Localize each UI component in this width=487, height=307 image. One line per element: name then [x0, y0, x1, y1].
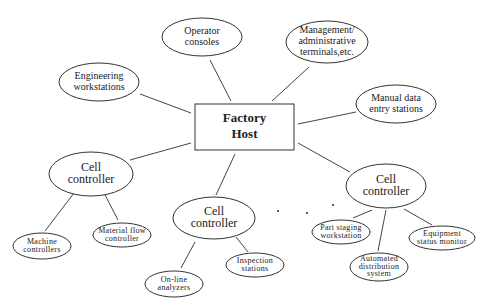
node-machine-controllers: Machinecontrollers	[13, 233, 71, 259]
node-label-line: terminals,etc.	[300, 46, 354, 57]
node-label-line: Host	[232, 126, 259, 141]
node-cell-controller-middle: Cellcontroller	[173, 197, 255, 239]
node-management-terminals: Management/administrativeterminals,etc.	[286, 21, 368, 63]
node-label-line: system	[367, 269, 391, 278]
node-label-line: administrative	[298, 35, 356, 46]
node-label-line: Operator	[184, 25, 220, 36]
edge-factory-host-to-cell-controller-right	[298, 143, 350, 172]
edge-factory-host-to-operator-consoles	[210, 60, 231, 101]
node-label-line: status monitor	[417, 237, 467, 246]
edge-factory-host-to-engineering-workstations	[140, 94, 191, 113]
edge-cell-controller-left-to-material-flow-controller	[104, 193, 118, 220]
edge-cell-controller-left-to-machine-controllers	[45, 193, 74, 231]
node-label-line: Management/	[300, 24, 355, 35]
node-part-staging-workstation: Part stagingworkstation	[312, 220, 370, 244]
edge-cell-controller-middle-to-inspection-stations	[236, 237, 248, 252]
nodes: FactoryHostOperatorconsolesManagement/ad…	[13, 18, 475, 297]
edge-cell-controller-right-to-part-staging-workstation	[353, 210, 372, 218]
edge-factory-host-to-manual-data-entry	[298, 112, 356, 124]
node-label-line: controller	[68, 172, 115, 186]
network-diagram: FactoryHostOperatorconsolesManagement/ad…	[0, 0, 487, 307]
ellipsis-dot	[306, 212, 308, 214]
node-label-line: Manual data	[371, 92, 421, 103]
diagram-canvas: FactoryHostOperatorconsolesManagement/ad…	[0, 0, 487, 307]
edge-factory-host-to-cell-controller-left	[130, 143, 191, 160]
node-label-line: analyzers	[158, 283, 191, 292]
node-label-line: Factory	[223, 110, 267, 125]
ellipsis-dots	[277, 204, 334, 214]
node-on-line-analyzers: On-lineanalyzers	[145, 271, 203, 297]
node-cell-controller-right: Cellcontroller	[346, 164, 426, 208]
edge-factory-host-to-cell-controller-middle	[216, 154, 235, 195]
node-label-line: entry stations	[369, 103, 423, 114]
node-automated-distribution-system: Automateddistributionsystem	[350, 253, 408, 281]
node-operator-consoles: Operatorconsoles	[162, 18, 242, 56]
node-cell-controller-left: Cellcontroller	[49, 152, 133, 196]
node-manual-data-entry: Manual dataentry stations	[356, 85, 436, 123]
node-label-line: workstation	[320, 231, 361, 240]
node-material-flow-controller: Material flowcontroller	[93, 223, 151, 247]
node-inspection-stations: Inspectionstations	[226, 253, 284, 277]
node-label-line: workstations	[73, 81, 124, 92]
node-engineering-workstations: Engineeringworkstations	[59, 63, 139, 101]
node-label-line: stations	[242, 264, 269, 273]
node-label-line: Engineering	[75, 70, 124, 81]
node-label-line: consoles	[185, 36, 220, 47]
edge-cell-controller-middle-to-on-line-analyzers	[181, 242, 195, 268]
node-equipment-status-monitor: Equipmentstatus monitor	[409, 226, 475, 250]
edge-cell-controller-right-to-equipment-status-monitor	[404, 209, 432, 225]
node-label-line: controller	[363, 184, 410, 198]
ellipsis-dot	[277, 210, 279, 212]
node-label-line: controllers	[23, 245, 61, 254]
node-factory-host: FactoryHost	[195, 104, 294, 150]
ellipsis-dot	[332, 204, 334, 206]
edge-cell-controller-right-to-automated-distribution-system	[378, 210, 386, 251]
node-label-line: controller	[191, 216, 238, 230]
node-label-line: controller	[105, 234, 139, 243]
edge-factory-host-to-management-terminals	[272, 67, 309, 101]
